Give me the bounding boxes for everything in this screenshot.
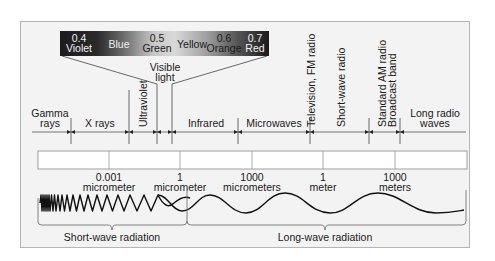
orange-label: Orange [204, 43, 244, 53]
long-line2: waves [404, 118, 466, 128]
band-short-wave-radio: Short-wave radio [336, 48, 346, 127]
scale-label-1-meter: 1 meter [298, 172, 348, 192]
visible-light-label: Visible light [148, 62, 182, 82]
scale-label-1-micrometer: 1 micrometer [150, 172, 210, 192]
scale-unit: micrometer [150, 182, 210, 192]
spectrum-blue: Blue [104, 39, 134, 49]
scale-label-0001-micrometer: 0.001 micrometer [79, 172, 139, 192]
scale-unit: micrometer [79, 182, 139, 192]
band-microwaves: Microwaves [242, 118, 306, 128]
band-infrared: Infrared [180, 118, 232, 128]
band-television-fm-radio: Television, FM radio [306, 34, 316, 127]
long-wave-radiation-label: Long-wave radiation [270, 232, 380, 242]
band-x-rays: X rays [78, 118, 122, 128]
visible-label-line2: light [148, 72, 182, 82]
scale-unit: meters [370, 182, 420, 192]
green-label: Green [140, 43, 174, 53]
band-ultraviolet: Ultraviolet [138, 80, 148, 127]
scale-label-1000-meters: 1000 meters [370, 172, 420, 192]
scale-unit: micrometers [218, 182, 286, 192]
band-long-radio-waves: Long radio waves [404, 108, 466, 128]
scale-unit: meter [298, 182, 348, 192]
band-broadcast-band: Broadcast band [387, 53, 397, 127]
red-label: Red [242, 43, 268, 53]
spectrum-green: 0.5 Green [140, 33, 174, 53]
visible-spectrum-bar: 0.4 Violet Blue 0.5 Green Yellow 0.6 Ora… [60, 31, 269, 56]
band-gamma-rays: Gamma rays [30, 108, 70, 128]
spectrum-orange: 0.6 Orange [204, 33, 244, 53]
gamma-line2: rays [30, 118, 70, 128]
violet-label: Violet [64, 43, 94, 53]
spectrum-red: 0.7 Red [242, 33, 268, 53]
scale-label-1000-micrometers: 1000 micrometers [218, 172, 286, 192]
spectrum-violet: 0.4 Violet [64, 33, 94, 53]
short-wave-radiation-label: Short-wave radiation [62, 232, 162, 242]
